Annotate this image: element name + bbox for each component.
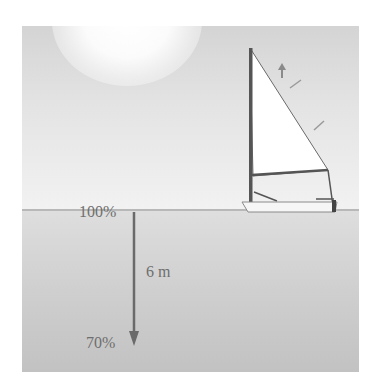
batten-2 [314,121,324,130]
batten-1 [290,80,301,88]
hull [242,202,337,212]
vang [254,192,277,201]
mast [249,48,253,206]
surface-intensity-label: 100% [79,204,116,220]
depth-label: 6 m [146,264,170,280]
arrow-head [129,331,139,346]
sail [250,48,328,176]
sailboat-icon [22,26,359,372]
depth-intensity-label: 70% [86,335,115,351]
sail-insignia-head [278,63,286,70]
rudder [332,200,336,212]
illustration-frame: 100% 6 m 70% [22,26,359,372]
